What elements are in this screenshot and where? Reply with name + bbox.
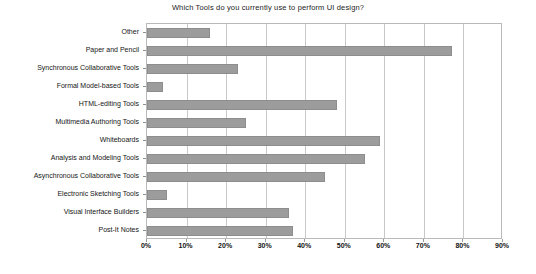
x-axis-tick-label: 10% bbox=[171, 242, 201, 249]
y-axis-tick bbox=[143, 212, 146, 213]
y-axis-tick bbox=[143, 122, 146, 123]
bar-row bbox=[147, 24, 501, 42]
y-axis-label: Multimedia Authoring Tools bbox=[0, 113, 142, 131]
x-axis-tick-label: 50% bbox=[329, 242, 359, 249]
bar bbox=[147, 136, 380, 146]
y-axis-label: Visual Interface Builders bbox=[0, 203, 142, 221]
y-axis-tick bbox=[143, 68, 146, 69]
bar-row bbox=[147, 150, 501, 168]
bar-row bbox=[147, 186, 501, 204]
bar bbox=[147, 64, 238, 74]
bar bbox=[147, 100, 337, 110]
bar-row bbox=[147, 222, 501, 240]
bar bbox=[147, 154, 365, 164]
bar-series bbox=[147, 24, 501, 238]
bar-chart: Which Tools do you currently use to perf… bbox=[0, 0, 536, 274]
bar-row bbox=[147, 42, 501, 60]
x-axis-tick-label: 0% bbox=[131, 242, 161, 249]
x-axis-tick-label: 90% bbox=[487, 242, 517, 249]
bar-row bbox=[147, 132, 501, 150]
x-axis-tick-label: 60% bbox=[368, 242, 398, 249]
bar bbox=[147, 172, 325, 182]
x-axis-tick-label: 80% bbox=[447, 242, 477, 249]
bar-row bbox=[147, 96, 501, 114]
y-axis-label: Whiteboards bbox=[0, 131, 142, 149]
y-axis-label: Paper and Pencil bbox=[0, 41, 142, 59]
y-axis-category-labels: OtherPaper and PencilSynchronous Collabo… bbox=[0, 23, 142, 239]
bar-row bbox=[147, 204, 501, 222]
bar bbox=[147, 82, 163, 92]
bar bbox=[147, 46, 452, 56]
x-axis-tick-labels: 0%10%20%30%40%50%60%70%80%90% bbox=[0, 242, 536, 256]
x-axis-tick-label: 20% bbox=[210, 242, 240, 249]
bar-row bbox=[147, 60, 501, 78]
y-axis-tick bbox=[143, 158, 146, 159]
bar-row bbox=[147, 114, 501, 132]
x-axis-tick-label: 40% bbox=[289, 242, 319, 249]
y-axis-label: Synchronous Collaborative Tools bbox=[0, 59, 142, 77]
y-axis-tick bbox=[143, 230, 146, 231]
y-axis-tick bbox=[143, 104, 146, 105]
y-axis-label: Electronic Sketching Tools bbox=[0, 185, 142, 203]
y-axis-tick bbox=[143, 176, 146, 177]
y-axis-tick bbox=[143, 194, 146, 195]
y-axis-label: HTML-editing Tools bbox=[0, 95, 142, 113]
y-axis-label: Analysis and Modeling Tools bbox=[0, 149, 142, 167]
plot-area bbox=[146, 23, 502, 239]
bar-row bbox=[147, 78, 501, 96]
y-axis-tick bbox=[143, 140, 146, 141]
y-axis-label: Other bbox=[0, 23, 142, 41]
bar bbox=[147, 226, 293, 236]
bar bbox=[147, 118, 246, 128]
x-axis-tick-label: 30% bbox=[250, 242, 280, 249]
y-axis-label: Post-It Notes bbox=[0, 221, 142, 239]
chart-title: Which Tools do you currently use to perf… bbox=[0, 3, 536, 12]
bar bbox=[147, 190, 167, 200]
bar-row bbox=[147, 168, 501, 186]
y-axis-label: Formal Model-based Tools bbox=[0, 77, 142, 95]
y-axis-label: Asynchronous Collaborative Tools bbox=[0, 167, 142, 185]
y-axis-tick bbox=[143, 32, 146, 33]
y-axis-tick bbox=[143, 50, 146, 51]
y-axis-tick bbox=[143, 86, 146, 87]
x-axis-tick-label: 70% bbox=[408, 242, 438, 249]
bar bbox=[147, 208, 289, 218]
bar bbox=[147, 28, 210, 38]
